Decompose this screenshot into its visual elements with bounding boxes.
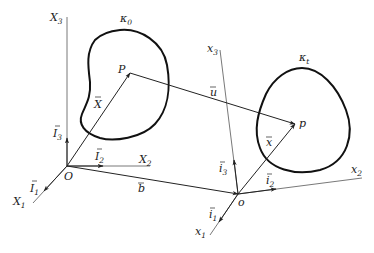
label-point-p: p [299, 117, 306, 130]
label-i3: i3 [219, 162, 228, 177]
label-x3: x3 [207, 42, 218, 57]
label-point-P: P [117, 63, 126, 76]
vector-b-arrow [67, 166, 238, 194]
label-vector-u: u [210, 86, 217, 99]
basis-i3-arrow [234, 160, 238, 194]
label-kappa-0: κ0 [119, 12, 132, 27]
current-frame [210, 50, 362, 235]
label-kappa-t: κt [298, 51, 310, 66]
label-I1: I1 [29, 181, 39, 197]
svg-text:I1: I1 [29, 182, 39, 197]
svg-text:i2: i2 [266, 174, 275, 189]
label-I3: I3 [52, 126, 62, 142]
label-origin-o: o [238, 196, 245, 209]
basis-i1-arrow [219, 194, 238, 222]
label-i2: i2 [266, 174, 275, 189]
svg-text:b: b [138, 182, 145, 195]
label-X1: X1 [12, 195, 26, 210]
svg-text:i1: i1 [209, 208, 217, 223]
svg-text:I2: I2 [94, 150, 104, 165]
label-X3: X3 [49, 11, 63, 26]
label-I2: I2 [94, 149, 104, 165]
svg-text:u: u [210, 86, 217, 99]
basis-i2-arrow [238, 189, 276, 194]
svg-text:x: x [266, 136, 273, 149]
label-i1: i1 [209, 208, 217, 223]
body-kappa-0 [81, 30, 169, 140]
label-origin-O: O [64, 170, 73, 183]
label-x1: x1 [195, 225, 206, 240]
svg-text:I3: I3 [52, 127, 62, 142]
label-vector-b: b [138, 182, 145, 195]
configuration-diagram: X3 X2 X1 O I3 I2 I1 x3 x2 x1 o i3 i2 [0, 0, 374, 253]
svg-text:i3: i3 [219, 162, 228, 177]
label-X2: X2 [138, 153, 152, 168]
label-vector-x: x [266, 136, 273, 149]
label-vector-X: X [93, 97, 103, 111]
svg-text:X: X [93, 98, 103, 111]
label-x2: x2 [351, 163, 362, 178]
